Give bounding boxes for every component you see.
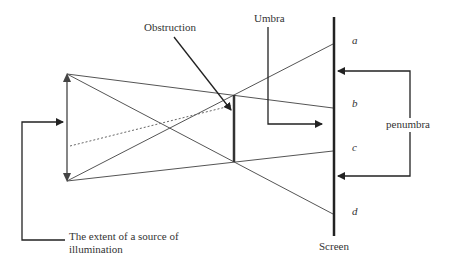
- ray-top-to-b: [67, 74, 333, 108]
- obstruction-label: Obstruction: [144, 21, 196, 33]
- ray-top-to-d: [67, 74, 333, 214]
- source-label-line1: The extent of a source of: [69, 230, 179, 242]
- source-extent: [63, 73, 71, 182]
- screen-label: Screen: [319, 240, 349, 252]
- umbra-pointer-arrow: [268, 27, 322, 124]
- umbra-label: Umbra: [254, 12, 285, 24]
- ray-bottom-to-c: [67, 151, 333, 181]
- obstruction-pointer-arrow: [174, 37, 231, 110]
- point-c-label: c: [352, 141, 357, 153]
- source-label-line2: illumination: [69, 243, 123, 255]
- penumbra-label: penumbra: [386, 118, 430, 130]
- ray-bottom-to-a: [67, 44, 333, 181]
- dotted-ray: [70, 105, 234, 146]
- point-d-label: d: [352, 205, 358, 217]
- diagram-canvas: [0, 0, 449, 263]
- point-b-label: b: [352, 97, 358, 109]
- point-a-label: a: [352, 34, 358, 46]
- source-bracket-arrow: [22, 122, 65, 240]
